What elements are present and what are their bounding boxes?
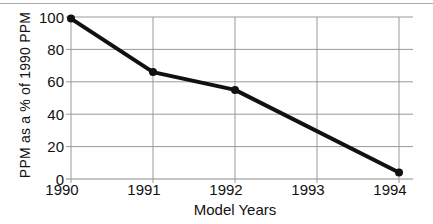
y-tick-label: 100	[39, 9, 64, 26]
y-tick-label: 40	[47, 106, 64, 123]
x-tick-label: 1990	[45, 181, 78, 198]
data-point-marker	[149, 68, 157, 76]
x-tick-label: 1992	[209, 181, 242, 198]
plot-area: 02040608010019901991199219931994	[0, 0, 433, 224]
line-chart-figure: PPM as a % of 1990 PPM 02040608010019901…	[0, 0, 433, 224]
y-tick-label: 60	[47, 73, 64, 90]
y-tick-label: 80	[47, 41, 64, 58]
x-tick-label: 1994	[373, 181, 406, 198]
data-point-marker	[395, 169, 403, 177]
data-point-marker	[67, 15, 75, 23]
data-point-marker	[231, 86, 239, 94]
x-tick-label: 1993	[291, 181, 324, 198]
x-tick-label: 1991	[127, 181, 160, 198]
x-axis-title: Model Years	[194, 201, 277, 218]
y-tick-label: 20	[47, 138, 64, 155]
